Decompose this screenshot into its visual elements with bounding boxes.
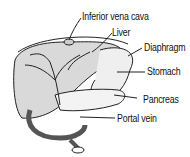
anatomy-diagram: Inferior vena cava Liver Diaphragm Stoma… bbox=[0, 0, 190, 157]
label-stomach: Stomach bbox=[147, 67, 181, 77]
label-portal-vein: Portal vein bbox=[117, 114, 157, 124]
anatomy-illustration bbox=[0, 0, 190, 157]
pancreas-shape bbox=[55, 89, 125, 111]
label-inferior-vena-cava: Inferior vena cava bbox=[82, 12, 149, 22]
label-liver: Liver bbox=[112, 28, 130, 38]
label-diaphragm: Diaphragm bbox=[144, 43, 185, 53]
label-pancreas: Pancreas bbox=[143, 95, 179, 105]
